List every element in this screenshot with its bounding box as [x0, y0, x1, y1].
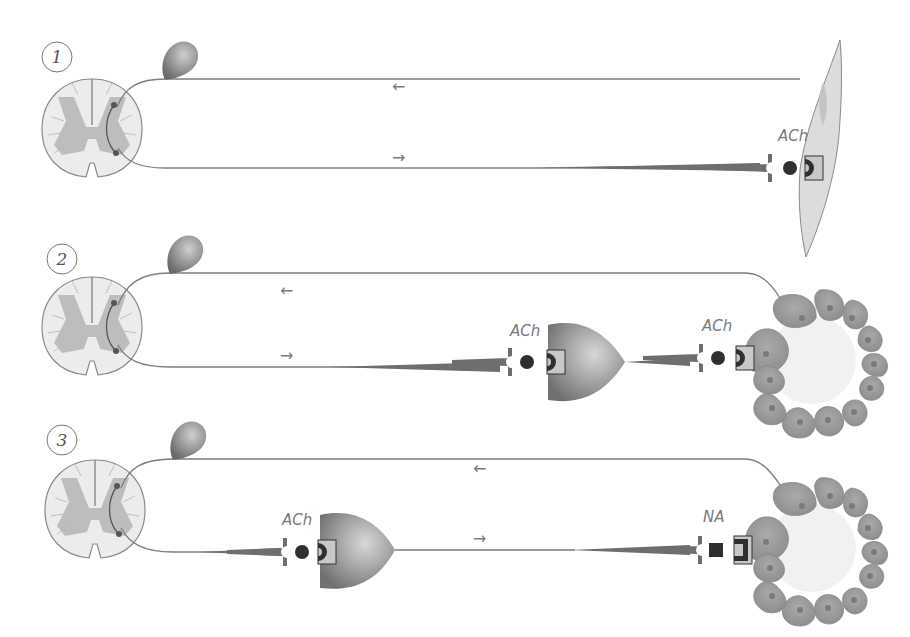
transmitter-label: ACh	[777, 127, 808, 145]
efferent-fiber	[118, 148, 760, 168]
muscarinic-receptor	[736, 346, 754, 370]
afferent-fiber	[117, 79, 800, 107]
panel-number: 1	[52, 47, 63, 67]
efferent-arrow: →	[392, 148, 405, 167]
presynaptic-terminal	[643, 344, 703, 372]
panel-1: 1 ACh ← →	[42, 40, 842, 257]
presynaptic-terminal	[227, 538, 287, 566]
preganglionic-fiber	[121, 528, 270, 552]
ach-molecule	[295, 545, 309, 559]
ach-molecule	[711, 351, 725, 365]
presynaptic-terminal	[712, 154, 772, 182]
dorsal-root-ganglion	[167, 236, 203, 274]
afferent-fiber	[118, 273, 780, 305]
presynaptic-terminal	[642, 536, 702, 564]
transmitter-label: NA	[703, 508, 724, 526]
spinal-cord-cross-section	[42, 277, 142, 375]
afferent-arrow: ←	[473, 459, 486, 478]
panel-2: 2 ACh ACh ← →	[42, 236, 888, 438]
autonomic-pathways-diagram: 1 ACh ← → 2 ACh ACh	[0, 0, 910, 637]
nicotinic-receptor	[318, 540, 336, 564]
gland-acinus	[745, 290, 887, 438]
transmitter-label: ACh	[701, 317, 732, 335]
afferent-arrow: ←	[392, 77, 405, 96]
preganglionic-fiber	[118, 345, 490, 367]
ach-molecule	[520, 355, 534, 369]
nicotinic-receptor	[547, 350, 565, 374]
dorsal-root-ganglion	[162, 42, 198, 80]
panel-number: 3	[57, 430, 68, 450]
na-molecule	[709, 543, 723, 557]
panel-3: 3 ACh NA ← →	[45, 422, 888, 626]
nicotinic-receptor	[805, 156, 823, 180]
transmitter-label: ACh	[509, 322, 540, 340]
spinal-cord-cross-section	[42, 79, 142, 177]
efferent-arrow: →	[473, 529, 486, 548]
spinal-cord-cross-section	[45, 460, 145, 558]
dorsal-root-ganglion	[170, 422, 206, 460]
gland-acinus	[745, 478, 887, 626]
efferent-arrow: →	[280, 346, 293, 365]
presynaptic-terminal	[452, 348, 512, 376]
transmitter-label: ACh	[281, 511, 312, 529]
ach-molecule	[783, 161, 797, 175]
panel-number: 2	[56, 249, 68, 269]
afferent-arrow: ←	[280, 281, 293, 300]
afferent-fiber	[121, 459, 780, 488]
muscle-fiber	[799, 40, 841, 257]
adrenergic-receptor	[734, 536, 752, 564]
